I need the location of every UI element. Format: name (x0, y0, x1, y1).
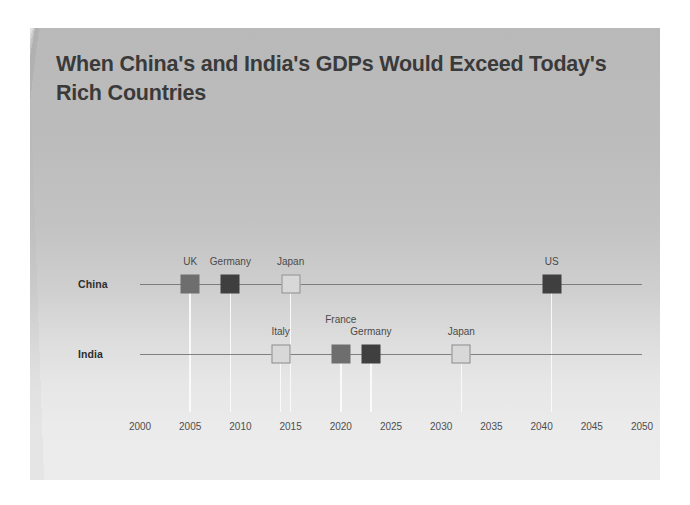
row-label-china: China (78, 278, 108, 290)
row-label-india: India (78, 348, 103, 360)
marker-label-india-japan: Japan (448, 326, 475, 337)
x-axis-tick-2030: 2030 (430, 421, 452, 432)
marker-label-china-us: US (545, 256, 559, 267)
marker-china-germany[interactable] (221, 274, 240, 293)
slide-panel: When China's and India's GDPs Would Exce… (30, 28, 660, 480)
marker-india-italy[interactable] (271, 344, 290, 363)
marker-label-india-germany: Germany (350, 326, 391, 337)
marker-label-india-italy: Italy (271, 326, 289, 337)
x-axis-tick-2015: 2015 (279, 421, 301, 432)
leader-line (290, 284, 292, 412)
x-axis-tick-2035: 2035 (480, 421, 502, 432)
x-axis-tick-2005: 2005 (179, 421, 201, 432)
marker-china-us[interactable] (542, 274, 561, 293)
x-axis-tick-2040: 2040 (530, 421, 552, 432)
x-axis-tick-2010: 2010 (229, 421, 251, 432)
x-axis-tick-2050: 2050 (631, 421, 653, 432)
marker-china-japan[interactable] (281, 274, 300, 293)
marker-china-uk[interactable] (181, 274, 200, 293)
timeline-axis-china (140, 284, 642, 285)
marker-india-france[interactable] (331, 344, 350, 363)
leader-line (230, 284, 232, 412)
marker-label-china-uk: UK (183, 256, 197, 267)
x-axis-tick-2045: 2045 (581, 421, 603, 432)
x-axis-tick-2020: 2020 (330, 421, 352, 432)
timeline-chart: ChinaUKGermanyJapanUSIndiaItalyFranceGer… (30, 86, 660, 480)
marker-india-germany[interactable] (361, 344, 380, 363)
x-axis-tick-2025: 2025 (380, 421, 402, 432)
marker-label-india-france: France (325, 314, 356, 325)
x-axis-tick-2000: 2000 (129, 421, 151, 432)
timeline-axis-india (140, 354, 642, 355)
leader-line (551, 284, 553, 412)
marker-label-china-japan: Japan (277, 256, 304, 267)
marker-label-china-germany: Germany (210, 256, 251, 267)
marker-india-japan[interactable] (452, 344, 471, 363)
leader-line (189, 284, 191, 412)
